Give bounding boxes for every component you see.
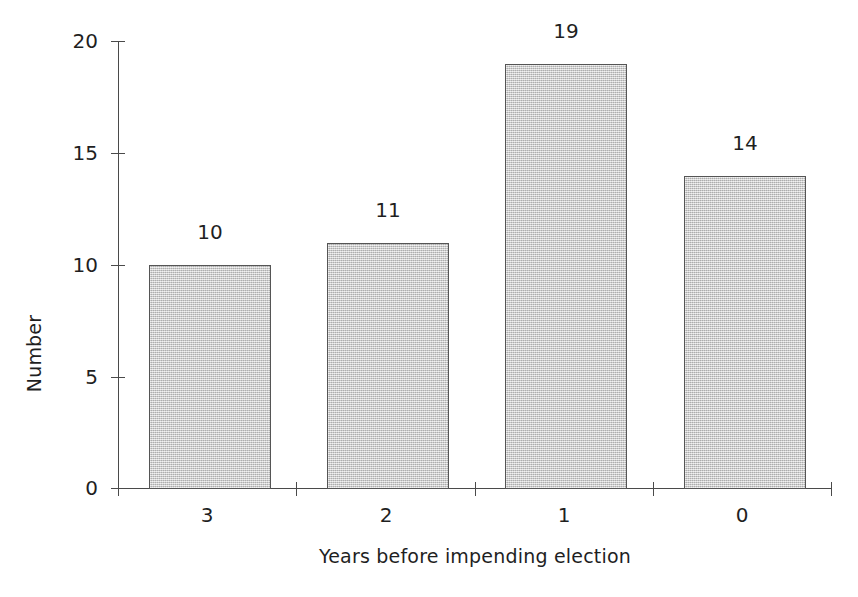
x-axis-tick-label-2: 2 [326, 505, 446, 525]
bar-value-label-0: 14 [675, 133, 815, 153]
x-axis-tick-label-1: 1 [504, 505, 624, 525]
y-axis-tick-10 [111, 265, 125, 266]
x-axis-tick-boundary-1 [296, 482, 297, 496]
y-axis-tick-label-15-wrap: 15 [38, 143, 98, 163]
y-axis-title: Number [14, 0, 54, 597]
bar-value-label-2: 11 [318, 200, 458, 220]
y-axis-tick-5 [111, 377, 125, 378]
bar-value-label-1: 19 [496, 21, 636, 41]
bar-value-label-3: 10 [140, 222, 280, 242]
x-axis-tick-boundary-3 [653, 482, 654, 496]
bar-chart: Number 20 15 10 5 0 10 11 19 14 3 2 1 0 … [0, 0, 858, 597]
y-axis-tick-label-15: 15 [38, 143, 98, 163]
x-axis-tick-boundary-2 [475, 482, 476, 496]
x-axis-tick-boundary-0 [118, 482, 119, 496]
y-axis-tick-label-20: 20 [38, 31, 98, 51]
x-axis-title: Years before impending election [118, 545, 832, 567]
x-axis-tick-label-0: 0 [682, 505, 802, 525]
y-axis-tick-label-0: 0 [38, 478, 98, 498]
y-axis-tick-20 [111, 41, 125, 42]
y-axis-tick-label-5-wrap: 5 [38, 367, 98, 387]
y-axis-tick-label-10-wrap: 10 [38, 255, 98, 275]
bar-category-2 [327, 243, 449, 489]
y-axis-tick-label-20-wrap: 20 [38, 31, 98, 51]
y-axis-tick-15 [111, 153, 125, 154]
bar-category-1 [505, 64, 627, 489]
x-axis-tick-label-3: 3 [147, 505, 267, 525]
y-axis-tick-label-5: 5 [38, 367, 98, 387]
bar-category-0 [684, 176, 806, 489]
x-axis-tick-boundary-4 [831, 482, 832, 496]
y-axis-tick-label-0-wrap: 0 [38, 478, 98, 498]
bar-category-3 [149, 265, 271, 489]
y-axis-tick-label-10: 10 [38, 255, 98, 275]
